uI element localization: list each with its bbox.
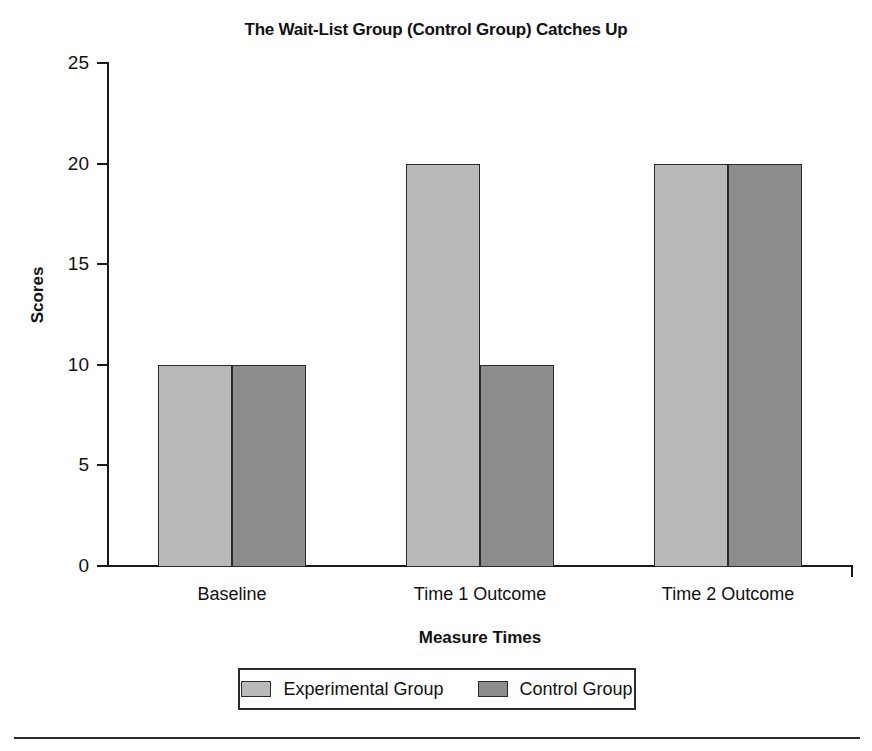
x-axis-category-label: Time 1 Outcome [360, 584, 600, 605]
legend-label: Control Group [520, 679, 633, 700]
experimental-swatch [241, 681, 271, 697]
legend-entry: Experimental Group [241, 679, 443, 700]
x-axis-title: Measure Times [107, 628, 853, 648]
y-axis-tick [97, 464, 108, 466]
y-axis-tick-label: 25 [45, 52, 89, 74]
bar-time-1-outcome-experimental-group [406, 164, 480, 567]
chart-figure: The Wait-List Group (Control Group) Catc… [0, 0, 872, 751]
bar-baseline-experimental-group [158, 365, 232, 567]
y-axis-tick [97, 263, 108, 265]
plot-area [108, 63, 852, 566]
y-axis-tick-label: 10 [45, 354, 89, 376]
y-axis-tick [97, 364, 108, 366]
bar-time-2-outcome-control-group [728, 164, 802, 567]
x-axis-category-label: Time 2 Outcome [608, 584, 848, 605]
control-swatch [478, 681, 508, 697]
x-axis-category-label: Baseline [112, 584, 352, 605]
y-axis-tick [97, 62, 108, 64]
bar-time-2-outcome-experimental-group [654, 164, 728, 567]
chart-legend: Experimental GroupControl Group [238, 668, 636, 710]
chart-title: The Wait-List Group (Control Group) Catc… [0, 20, 872, 40]
y-axis-tick [97, 565, 108, 567]
y-axis-tick-label: 20 [45, 153, 89, 175]
y-axis-title: Scores [28, 225, 48, 365]
x-axis-end-tick [851, 567, 853, 577]
legend-label: Experimental Group [283, 679, 443, 700]
bar-time-1-outcome-control-group [480, 365, 554, 567]
y-axis-tick-label: 0 [45, 555, 89, 577]
bar-baseline-control-group [232, 365, 306, 567]
y-axis-tick-label: 5 [45, 454, 89, 476]
y-axis-tick-label: 15 [45, 253, 89, 275]
legend-entry: Control Group [478, 679, 633, 700]
y-axis-tick [97, 163, 108, 165]
bottom-divider-rule [14, 737, 860, 739]
